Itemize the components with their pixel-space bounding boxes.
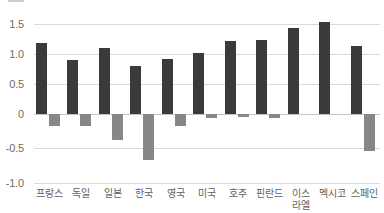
y-axis-tick: 0.5 (0, 79, 24, 90)
bar-group (65, 14, 96, 184)
bar-primary (288, 28, 299, 114)
bar-secondary (206, 114, 217, 118)
y-axis-tick: 0 (0, 109, 24, 120)
y-axis-tick: -1.0 (0, 178, 24, 189)
bar-primary (99, 48, 110, 114)
bar-secondary (238, 114, 249, 117)
bar-primary (319, 22, 330, 114)
bar-secondary (80, 114, 91, 126)
bar-group (317, 14, 348, 184)
bar-primary (162, 59, 173, 114)
bar-primary (36, 43, 47, 114)
bar-series-layer (34, 14, 380, 184)
bar-secondary (364, 114, 375, 151)
y-axis-tick: 1.5 (0, 19, 24, 30)
bar-primary (256, 40, 267, 114)
bar-group (286, 14, 317, 184)
bar-chart: 1.5 1.0 0.5 0 -0.5 -1.0 프랑스독일일본한국영국미국호주핀… (0, 0, 384, 213)
bar-group (254, 14, 285, 184)
bar-group (97, 14, 128, 184)
bar-group (223, 14, 254, 184)
bar-group (349, 14, 380, 184)
bar-group (160, 14, 191, 184)
bar-primary (225, 41, 236, 114)
bar-primary (130, 66, 141, 114)
y-axis-tick: 1.0 (0, 49, 24, 60)
bar-group (128, 14, 159, 184)
bar-primary (193, 53, 204, 114)
bar-secondary (49, 114, 60, 126)
bar-group (191, 14, 222, 184)
x-axis-labels: 프랑스독일일본한국영국미국호주핀란드이스 라엘멕시코스페인 (34, 188, 380, 213)
bar-secondary (143, 114, 154, 160)
y-axis-tick: -0.5 (0, 143, 24, 154)
bar-primary (351, 46, 362, 114)
bar-primary (67, 60, 78, 114)
bar-secondary (175, 114, 186, 126)
bar-secondary (112, 114, 123, 140)
bar-secondary (269, 114, 280, 118)
legend-swatch-icon (8, 0, 24, 2)
bar-group (34, 14, 65, 184)
x-axis-tick-label: 스페인 (345, 188, 384, 200)
